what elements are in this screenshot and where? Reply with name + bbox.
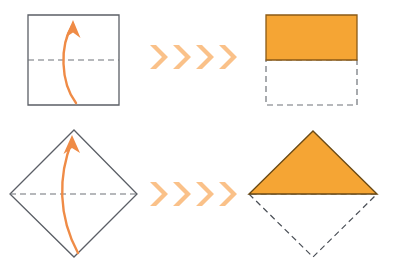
- diamond-folded: [249, 131, 377, 257]
- folded-top-half-rectangle: [266, 15, 357, 60]
- chevron-arrows-row-diamond: [150, 182, 237, 206]
- chevron-right-icon: [196, 182, 214, 206]
- figure-canvas: Paper folding diagram: square and diamon…: [0, 0, 394, 271]
- hidden-bottom-half-outline: [266, 60, 357, 105]
- square-folded: [266, 15, 357, 105]
- chevron-right-icon: [150, 182, 168, 206]
- chevron-right-icon: [219, 45, 237, 69]
- diamond-unfolded: [10, 130, 137, 257]
- paper-folding-figure: Paper folding diagram: square and diamon…: [0, 0, 394, 271]
- row-square: [28, 15, 357, 105]
- chevron-right-icon: [150, 45, 168, 69]
- hidden-bottom-half-outline: [249, 194, 377, 257]
- square-unfolded: [28, 15, 119, 105]
- chevron-right-icon: [173, 182, 191, 206]
- row-diamond: [10, 130, 377, 257]
- chevron-arrows-row-square: [150, 45, 237, 69]
- chevron-right-icon: [219, 182, 237, 206]
- chevron-right-icon: [196, 45, 214, 69]
- folded-top-half-triangle: [249, 131, 377, 194]
- chevron-right-icon: [173, 45, 191, 69]
